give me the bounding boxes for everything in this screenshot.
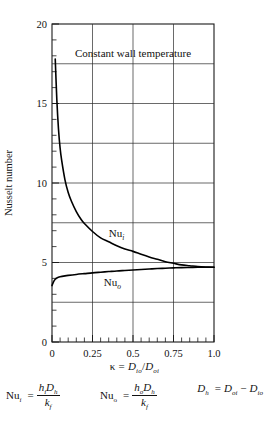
formula-nu-o-lhs-text: Nu (100, 389, 113, 401)
kappa-denominator-sub: oi (153, 367, 159, 375)
formula-nu-i-fraction: hiDh kf (37, 382, 60, 408)
formula-d-h-term-b-sub: io (258, 389, 263, 397)
curve-nu-i (55, 59, 214, 267)
curve-label-subscript: i (122, 233, 124, 242)
formula-nu-i-den-sub: f (50, 403, 52, 411)
formula-nu-i-lhs-text: Nu (6, 389, 19, 401)
formula-d-h-term-a-sub: oi (232, 389, 237, 397)
y-tick-label: 5 (42, 257, 47, 268)
kappa-equals: = (119, 360, 125, 372)
formula-d-h-term-b-text: D (250, 382, 258, 394)
formula-nu-i-num-b: D (46, 381, 54, 393)
formula-nu-o-numerator: hoDh (132, 382, 156, 395)
formula-nu-i-lhs-sub: i (19, 396, 21, 404)
kappa-numerator: D (128, 360, 136, 372)
y-tick-label: 15 (37, 98, 48, 109)
y-axis-title: Nusselt number (3, 149, 14, 216)
formula-nu-i-lhs: Nui (6, 389, 21, 401)
curve-label-base: Nu (109, 227, 123, 239)
formula-nu-o: Nuo = hoDh kf (100, 382, 157, 408)
formula-d-h-equals: = (215, 382, 221, 394)
formula-nu-i-equals: = (27, 389, 33, 401)
formula-d-h-term-a-text: D (224, 382, 232, 394)
y-tick-label: 20 (37, 19, 48, 30)
formula-d-h-minus: − (240, 382, 246, 394)
formula-nu-o-lhs-sub: o (114, 396, 118, 404)
x-axis-title: κ = Dio/Doi (0, 356, 269, 372)
formula-d-h-lhs: Dh (197, 382, 208, 394)
y-tick-label: 10 (37, 178, 48, 189)
formula-nu-o-equals: = (123, 389, 129, 401)
kappa-symbol: κ (110, 360, 116, 372)
curve-label-base: Nu (104, 276, 118, 288)
curve-label-nu-o: Nuo (104, 276, 121, 291)
nusselt-number-chart: 00.250.50.751.0 05101520 Constant wall t… (0, 0, 269, 360)
grid-lines (52, 24, 214, 342)
figure-container: 00.250.50.751.0 05101520 Constant wall t… (0, 0, 269, 437)
formula-d-h-term-b: Dio (250, 382, 263, 394)
curve-label-subscript: o (117, 282, 121, 291)
formula-nu-o-fraction: hoDh kf (132, 382, 156, 408)
y-tick-labels: 05101520 (37, 19, 48, 348)
formula-nu-i: Nui = hiDh kf (6, 382, 60, 408)
y-tick-label: 0 (42, 337, 47, 348)
formula-nu-o-lhs: Nuo (100, 389, 117, 401)
formula-d-h: Dh = Doi − Dio (197, 382, 263, 394)
formula-nu-i-denominator: kf (43, 396, 54, 409)
formula-row: Nui = hiDh kf Nuo = hoDh kf (0, 372, 269, 408)
formula-d-h-lhs-sub: h (205, 389, 209, 397)
formula-block: κ = Dio/Doi Nui = hiDh kf Nuo = hoDh (0, 356, 269, 437)
curve-label-nu-i: Nui (109, 227, 125, 242)
plot-title: Constant wall temperature (75, 47, 191, 59)
formula-nu-o-denominator: kf (139, 396, 150, 409)
formula-nu-o-den-sub: f (146, 403, 148, 411)
formula-nu-i-numerator: hiDh (37, 382, 60, 395)
formula-d-h-term-a: Doi (224, 382, 237, 394)
